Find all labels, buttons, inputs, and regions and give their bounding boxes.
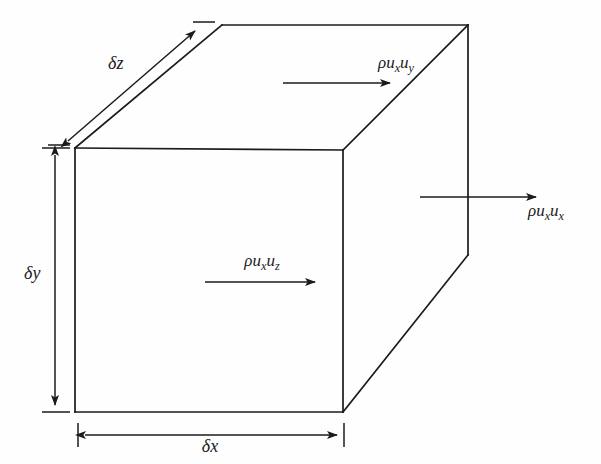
dimension-z — [48, 22, 215, 145]
dimension-y — [42, 148, 70, 412]
flux-label-right: ρuxux — [528, 202, 564, 223]
edge-bottom-right-diagonal — [343, 255, 468, 412]
control-volume-diagram — [0, 0, 601, 464]
dimension-label-z: δz — [108, 54, 123, 72]
edge-top-right-diagonal — [343, 25, 468, 150]
u-symbol-top-1: u — [386, 53, 395, 72]
u-subscript-top-2: y — [409, 61, 414, 75]
dimension-z-arrow — [68, 31, 195, 141]
axis-letter-z: z — [116, 53, 123, 73]
dimension-label-y: δy — [24, 264, 40, 282]
axis-letter-y: y — [32, 263, 40, 283]
flux-label-top: ρuxuy — [378, 54, 414, 75]
u-subscript-right-2: x — [559, 209, 564, 223]
rho-symbol-top: ρ — [378, 53, 386, 72]
dimension-label-x: δx — [202, 437, 218, 455]
edge-front-top — [75, 148, 343, 150]
u-symbol-top-2: u — [400, 53, 409, 72]
rho-symbol-right: ρ — [528, 201, 536, 220]
axis-letter-x: x — [210, 436, 218, 456]
u-symbol-front-2: u — [266, 251, 275, 270]
u-subscript-front-2: z — [275, 259, 280, 273]
edge-top-left-diagonal — [75, 25, 222, 148]
u-symbol-right-1: u — [536, 201, 545, 220]
flux-label-front: ρuxuz — [244, 252, 279, 273]
u-symbol-front-1: u — [252, 251, 261, 270]
rho-symbol-front: ρ — [244, 251, 252, 270]
u-symbol-right-2: u — [550, 201, 559, 220]
